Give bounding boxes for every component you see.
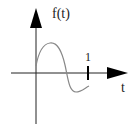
function-plot: f(t) t 1	[0, 0, 135, 133]
tick-label: 1	[85, 50, 91, 64]
function-curve	[36, 43, 89, 92]
y-axis-label: f(t)	[52, 6, 70, 22]
x-axis-arrow-icon	[107, 67, 128, 79]
x-axis-label: t	[121, 80, 125, 95]
y-axis-arrow-icon	[30, 8, 42, 28]
